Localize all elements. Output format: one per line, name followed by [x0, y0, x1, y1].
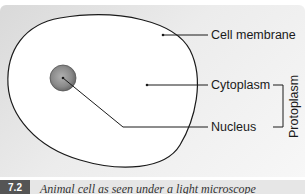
figure-number-badge: 7.2	[0, 180, 30, 194]
cell-membrane-outline	[8, 15, 198, 167]
protoplasm-bracket	[273, 85, 283, 127]
label-nucleus: Nucleus	[211, 121, 256, 134]
figure-caption: 7.2 Animal cell as seen under a light mi…	[0, 180, 305, 194]
caption-text: Animal cell as seen under a light micros…	[40, 181, 256, 194]
label-cell-membrane: Cell membrane	[211, 29, 296, 42]
label-protoplasm: Protoplasm	[288, 75, 301, 138]
label-cytoplasm: Cytoplasm	[211, 79, 270, 92]
